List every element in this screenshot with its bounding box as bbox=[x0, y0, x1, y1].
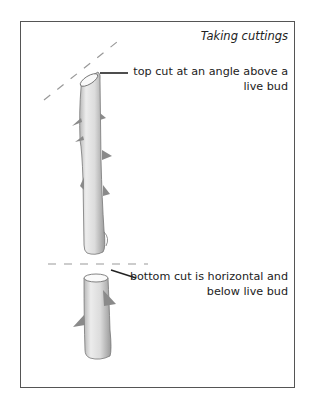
lower-stem-cutting bbox=[73, 274, 116, 359]
thorn-icon bbox=[103, 290, 116, 306]
bottom-cut-leader-line bbox=[111, 270, 136, 278]
cuttings-illustration bbox=[0, 0, 314, 406]
thorn-icon bbox=[80, 177, 84, 190]
horizontal-cut-surface bbox=[84, 274, 108, 282]
upper-stem-cutting bbox=[72, 71, 112, 254]
thorn-icon bbox=[73, 315, 85, 327]
thorn-icon bbox=[102, 150, 112, 160]
thorn-icon bbox=[100, 113, 106, 120]
thorn-icon bbox=[103, 185, 110, 196]
